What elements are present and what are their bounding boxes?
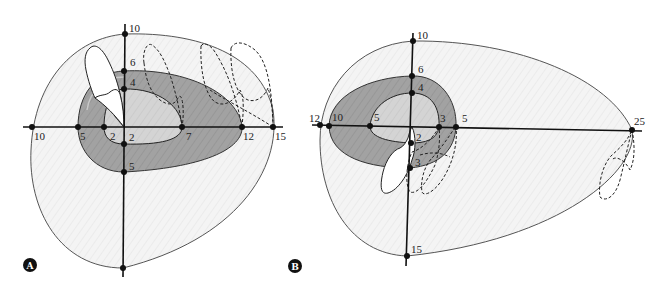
panel-a-label-top-outer: 10 xyxy=(129,22,141,34)
panel-b-label-left-inner: 5 xyxy=(374,111,380,123)
panel-a: 10 6 4 2 5 10 5 2 7 12 15 A xyxy=(23,22,287,277)
panel-a-point-left-inner xyxy=(101,124,107,130)
panel-a-label-top-middle: 6 xyxy=(130,56,136,68)
panel-b-point-left-middle xyxy=(326,123,332,129)
panel-a-point-top-inner xyxy=(121,86,127,92)
panel-a-point-right-inner xyxy=(179,124,185,130)
panel-b-label-right-outer: 25 xyxy=(634,115,646,127)
panel-a-point-top-outer xyxy=(122,31,128,37)
panel-b-point-right-outer xyxy=(629,127,635,133)
panel-b: 10 6 4 2 3 15 12 10 5 3 5 25 B xyxy=(288,29,646,273)
panel-a-label-bottom-middle: 5 xyxy=(129,160,135,172)
panel-b-label-bottom-inner: 2 xyxy=(416,131,422,143)
panel-a-label-left-middle: 5 xyxy=(80,130,86,142)
panel-b-label-left-middle: 10 xyxy=(332,111,344,123)
panel-b-point-top-outer xyxy=(410,38,416,44)
panel-a-label-bottom-inner: 2 xyxy=(129,131,135,143)
panel-a-label-left-inner: 2 xyxy=(110,130,116,142)
panel-b-label-top-inner: 4 xyxy=(418,81,424,93)
panel-a-point-bottom-inner xyxy=(121,141,127,147)
panel-b-point-bottom-outer xyxy=(404,253,410,259)
panel-b-point-right-inner xyxy=(436,124,442,130)
panel-b-point-top-inner xyxy=(409,90,415,96)
panel-b-label-bottom-middle: 3 xyxy=(415,156,421,168)
panel-b-label-top-middle: 6 xyxy=(418,63,424,75)
panel-a-point-bottom-middle xyxy=(121,169,127,175)
panel-b-point-top-middle xyxy=(409,73,415,79)
panel-b-label-right-inner: 3 xyxy=(440,112,446,124)
panel-a-point-bottom-outer xyxy=(120,265,126,271)
panel-a-label-right-middle: 12 xyxy=(243,130,254,142)
panel-b-label-bottom-outer: 15 xyxy=(411,243,423,255)
panel-b-point-right-middle xyxy=(453,124,459,130)
panel-a-label-right-outer: 15 xyxy=(275,130,287,142)
panel-b-label-left-outer: 12 xyxy=(309,112,320,124)
panel-b-label-top-outer: 10 xyxy=(417,29,429,41)
panel-a-point-top-middle xyxy=(121,68,127,74)
panel-b-letter-badge: B xyxy=(288,259,302,273)
panel-a-label-top-inner: 4 xyxy=(130,76,136,88)
panel-b-letter: B xyxy=(291,262,299,272)
figure-canvas: 10 6 4 2 5 10 5 2 7 12 15 A xyxy=(0,0,660,291)
panel-b-point-bottom-middle xyxy=(407,165,413,171)
panel-b-point-left-inner xyxy=(367,123,373,129)
panel-a-letter: A xyxy=(26,261,35,271)
panel-a-label-left-outer: 10 xyxy=(34,130,46,142)
panel-b-label-right-middle: 5 xyxy=(462,112,468,124)
panel-a-label-right-inner: 7 xyxy=(186,130,192,142)
panel-b-point-bottom-inner xyxy=(408,140,414,146)
panel-a-letter-badge: A xyxy=(23,258,37,272)
